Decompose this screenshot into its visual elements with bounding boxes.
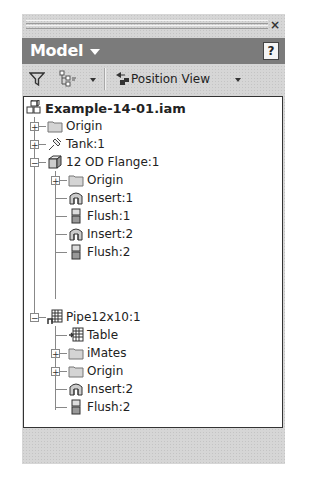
assembly-icon	[26, 100, 42, 116]
tree-item-label: Insert:1	[87, 191, 133, 205]
tree-item-label: Origin	[66, 119, 102, 133]
flush-constraint-icon	[68, 399, 84, 415]
tree-line	[55, 171, 56, 299]
tree-item-flush-constraint[interactable]: Flush:2	[68, 398, 130, 416]
tree-item-label: Origin	[87, 364, 123, 378]
filter-funnel-icon[interactable]	[29, 71, 45, 87]
expand-button[interactable]: +	[51, 349, 60, 358]
help-button[interactable]: ?	[263, 42, 279, 60]
tree-item-label: Pipe12x10:1	[66, 310, 141, 324]
expand-button[interactable]: +	[30, 140, 39, 149]
tree-item-label: Flush:1	[87, 209, 130, 223]
tree-line	[55, 216, 67, 217]
flush-constraint-icon	[68, 208, 84, 224]
tree-root-assembly[interactable]: Example-14-01.iam	[26, 99, 186, 117]
table-icon	[68, 327, 84, 343]
tree-item-origin[interactable]: Origin	[68, 171, 123, 189]
tree-item-insert-constraint[interactable]: Insert:2	[68, 225, 133, 243]
browser-mode-dropdown[interactable]: Model	[30, 41, 83, 60]
folder-icon	[68, 345, 84, 361]
tree-item-tank[interactable]: Tank:1	[47, 135, 105, 153]
expand-button[interactable]: +	[51, 367, 60, 376]
tree-line	[55, 198, 67, 199]
tree-item-flange[interactable]: 12 OD Flange:1	[47, 153, 159, 171]
grounded-part-icon	[47, 136, 63, 152]
expand-button[interactable]: +	[30, 122, 39, 131]
tree-root-label: Example-14-01.iam	[45, 101, 186, 116]
tree-item-label: Origin	[87, 173, 123, 187]
tree-item-imates[interactable]: iMates	[68, 344, 126, 362]
insert-constraint-icon	[68, 381, 84, 397]
model-browser-panel: × Model ? Position View	[22, 14, 285, 464]
browser-toolbar: Position View	[22, 64, 285, 94]
part-icon	[47, 154, 63, 170]
close-button[interactable]: ×	[269, 19, 281, 31]
expand-button[interactable]: +	[51, 176, 60, 185]
insert-constraint-icon	[68, 190, 84, 206]
tree-item-label: iMates	[87, 346, 126, 360]
tree-item-table[interactable]: Table	[68, 326, 118, 344]
folder-icon	[68, 363, 84, 379]
tree-item-label: Flush:2	[87, 245, 130, 259]
tree-item-flush-constraint[interactable]: Flush:2	[68, 243, 130, 261]
position-view-button[interactable]: Position View	[114, 69, 210, 89]
tree-item-label: Table	[87, 328, 118, 342]
tree-line	[55, 389, 67, 390]
grip-line	[26, 25, 268, 29]
grip-line	[26, 20, 268, 24]
tree-item-label: Tank:1	[66, 137, 105, 151]
tree-line	[55, 407, 67, 408]
tree-item-insert-constraint[interactable]: Insert:1	[68, 189, 133, 207]
position-view-label: Position View	[131, 72, 210, 86]
tree-item-label: 12 OD Flange:1	[66, 155, 159, 169]
folder-icon	[68, 172, 84, 188]
panel-header: Model ?	[22, 38, 285, 64]
tree-item-label: Insert:2	[87, 382, 133, 396]
tree-item-flush-constraint[interactable]: Flush:1	[68, 207, 130, 225]
tree-item-origin[interactable]: Origin	[68, 362, 123, 380]
chevron-down-icon[interactable]	[90, 49, 100, 55]
tree-item-label: Flush:2	[87, 400, 130, 414]
tree-item-insert-constraint[interactable]: Insert:2	[68, 380, 133, 398]
tree-line	[55, 234, 67, 235]
tree-line	[55, 335, 67, 336]
position-view-dropdown-caret-icon[interactable]	[235, 78, 241, 82]
tree-line	[55, 252, 67, 253]
model-tree[interactable]: Example-14-01.iam + Origin + Tank:1 −	[23, 96, 283, 428]
folder-icon	[47, 118, 63, 134]
position-view-icon	[114, 71, 130, 87]
display-dropdown-caret-icon[interactable]	[90, 78, 96, 82]
collapse-button[interactable]: −	[30, 313, 39, 322]
panel-grip-bar[interactable]: ×	[22, 14, 285, 36]
insert-constraint-icon	[68, 226, 84, 242]
toolbar-separator	[104, 68, 106, 90]
tree-item-origin[interactable]: Origin	[47, 117, 102, 135]
flush-constraint-icon	[68, 244, 84, 260]
collapse-button[interactable]: −	[30, 158, 39, 167]
iPart-table-icon	[47, 309, 63, 325]
tree-item-label: Insert:2	[87, 227, 133, 241]
tree-display-icon[interactable]	[58, 70, 78, 88]
tree-item-pipe[interactable]: Pipe12x10:1	[47, 308, 141, 326]
